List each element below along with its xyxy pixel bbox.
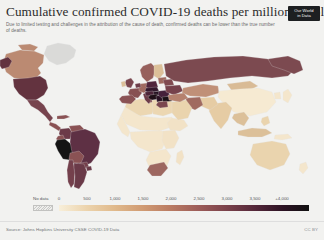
legend-tick-3000: 3,000	[222, 196, 233, 201]
country-uruguay[interactable]	[86, 166, 92, 171]
legend-tick-0: 0	[58, 196, 60, 201]
legend-tick-500: 500	[83, 196, 90, 201]
legend-segment-0[interactable]	[59, 205, 87, 211]
our-world-in-data-logo[interactable]: Our World in Data	[288, 6, 320, 21]
world-choropleth-map[interactable]	[0, 36, 324, 196]
legend-tick-3500: 3,500	[250, 196, 261, 201]
legend-gradient-bar[interactable]	[59, 205, 285, 211]
owid-chart-screenshot: Cumulative confirmed COVID-19 deaths per…	[0, 0, 324, 240]
legend-segment-3500[interactable]	[255, 205, 283, 211]
legend-tick-2500: 2,500	[194, 196, 205, 201]
color-legend[interactable]: No data 0 500 1,000 1,500 2,000 2,500 3,…	[0, 196, 324, 220]
legend-segment-2500[interactable]	[199, 205, 227, 211]
page-title: Cumulative confirmed COVID-19 deaths per…	[6, 5, 318, 19]
legend-no-data-label: No data	[33, 196, 48, 201]
legend-tick-1500: 1,500	[138, 196, 149, 201]
legend-segment-3000[interactable]	[227, 205, 255, 211]
map-svg	[0, 36, 324, 196]
legend-tick-4000plus: +4,000	[275, 196, 289, 201]
country-benelux[interactable]	[135, 83, 141, 88]
legend-segment-4000[interactable]	[283, 205, 309, 211]
legend-segment-1500[interactable]	[143, 205, 171, 211]
legend-no-data-swatch[interactable]	[33, 205, 53, 211]
legend-segment-500[interactable]	[87, 205, 115, 211]
legend-tick-labels: No data 0 500 1,000 1,500 2,000 2,500 3,…	[33, 196, 285, 204]
country-ireland[interactable]	[121, 81, 126, 87]
legend-bars[interactable]	[33, 205, 285, 212]
legend-segment-1000[interactable]	[115, 205, 143, 211]
chart-subtitle: Due to limited testing and challenges in…	[6, 22, 278, 33]
license-note[interactable]: CC BY	[304, 227, 318, 232]
chart-header: Cumulative confirmed COVID-19 deaths per…	[0, 0, 324, 33]
legend-tick-1000: 1,000	[110, 196, 121, 201]
legend-segment-2000[interactable]	[171, 205, 199, 211]
country-koreas[interactable]	[274, 92, 281, 99]
logo-line-2: in Data	[297, 14, 311, 18]
chart-footer: Source: Johns Hopkins University CSSE CO…	[0, 221, 324, 240]
source-note[interactable]: Source: Johns Hopkins University CSSE CO…	[6, 227, 119, 232]
legend-tick-2000: 2,000	[166, 196, 177, 201]
